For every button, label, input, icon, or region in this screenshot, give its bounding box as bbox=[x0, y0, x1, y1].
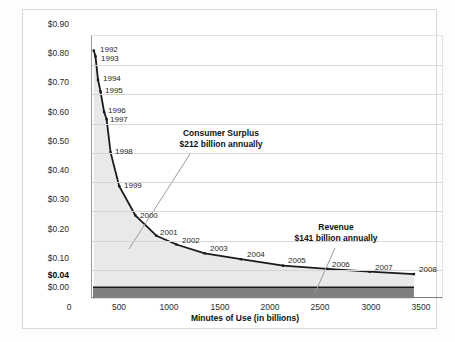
y-tick-label-0.70: $0.70 bbox=[19, 78, 69, 87]
gridline-0.80 bbox=[92, 65, 442, 66]
y-tick-label-0.90: $0.90 bbox=[19, 20, 69, 29]
y-tick-label-0.80: $0.80 bbox=[19, 49, 69, 58]
x-axis-title: Minutes of Use (in billions) bbox=[69, 313, 421, 323]
y-tick-label-0.30: $0.30 bbox=[19, 195, 69, 204]
revenue-area bbox=[93, 287, 414, 298]
y-tick-label-0.40: $0.40 bbox=[19, 166, 69, 175]
chart-svg bbox=[92, 36, 444, 299]
y-tick-label-0.50: $0.50 bbox=[19, 137, 69, 146]
y-tick-label-0.60: $0.60 bbox=[19, 108, 69, 117]
x-tick-label-0: 0 bbox=[49, 303, 89, 312]
annotation-consumer-surplus-line1: Consumer Surplus bbox=[156, 128, 286, 139]
gridline-0.70 bbox=[92, 94, 442, 95]
x-tick-label-1500: 1500 bbox=[200, 303, 240, 312]
point-label-1997: 1997 bbox=[110, 116, 128, 124]
gridline-0.40 bbox=[92, 182, 442, 183]
point-label-1994: 1994 bbox=[103, 75, 121, 83]
point-label-2004: 2004 bbox=[247, 251, 265, 259]
x-tick-label-3000: 3000 bbox=[351, 303, 391, 312]
point-label-1998: 1998 bbox=[115, 148, 133, 156]
x-tick-label-500: 500 bbox=[99, 303, 139, 312]
chart-canvas: Revenue per Minute of Use (constant 2008… bbox=[0, 0, 455, 342]
annotation-revenue: Revenue $141 billion annually bbox=[272, 222, 400, 244]
point-label-2002: 2002 bbox=[182, 237, 200, 245]
point-label-2005: 2005 bbox=[288, 257, 306, 265]
gridline-0.50 bbox=[92, 153, 442, 154]
y-tick-label-0.00: $0.00 bbox=[19, 283, 69, 292]
x-tick-label-2000: 2000 bbox=[250, 303, 290, 312]
annotation-consumer-surplus-line2: $212 billion annually bbox=[156, 139, 286, 150]
annotation-consumer-surplus: Consumer Surplus $212 billion annually bbox=[156, 128, 286, 150]
point-label-2001: 2001 bbox=[160, 229, 178, 237]
y-tick-label-0.10: $0.10 bbox=[19, 254, 69, 263]
y-tick-label-0.20: $0.20 bbox=[19, 225, 69, 234]
plot-area: 1992 1993 1994 1995 1996 1997 1998 1999 … bbox=[91, 35, 443, 298]
point-label-2007: 2007 bbox=[375, 264, 393, 272]
point-label-1999: 1999 bbox=[124, 182, 142, 190]
point-label-2003: 2003 bbox=[210, 245, 228, 253]
point-label-1996: 1996 bbox=[108, 107, 126, 115]
annotation-revenue-line1: Revenue bbox=[272, 222, 400, 233]
point-label-2008: 2008 bbox=[419, 266, 437, 274]
x-tick-label-2500: 2500 bbox=[300, 303, 340, 312]
point-label-2000: 2000 bbox=[140, 212, 158, 220]
y-tick-label-0.04: $0.04 bbox=[19, 271, 69, 280]
chart-outer-border: Revenue per Minute of Use (constant 2008… bbox=[22, 9, 437, 329]
point-label-1995: 1995 bbox=[105, 87, 123, 95]
point-label-1992: 1992 bbox=[100, 46, 118, 54]
point-label-2006: 2006 bbox=[332, 261, 350, 269]
x-tick-label-3500: 3500 bbox=[401, 303, 441, 312]
gridline-0.60 bbox=[92, 124, 442, 125]
x-tick-label-1000: 1000 bbox=[149, 303, 189, 312]
point-label-1993: 1993 bbox=[101, 55, 119, 63]
annotation-revenue-line2: $141 billion annually bbox=[272, 233, 400, 244]
